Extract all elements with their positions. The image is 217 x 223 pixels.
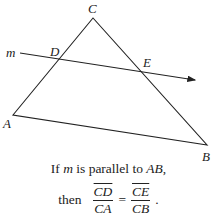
numerator: CE — [131, 184, 150, 201]
proportion-equation: then CD CA = CE CB . — [0, 184, 217, 216]
equals-sign: = — [118, 192, 126, 208]
label-e: E — [143, 56, 151, 69]
caption-text: , — [163, 161, 166, 176]
label-a: A — [3, 117, 11, 130]
period: . — [155, 192, 158, 208]
caption-text: is parallel to — [73, 161, 146, 176]
caption-line1: If m is parallel to AB, — [0, 161, 217, 177]
triangle-abc — [13, 18, 207, 145]
denominator: CB — [131, 201, 150, 217]
label-m: m — [6, 46, 15, 59]
caption-text: If — [51, 161, 63, 176]
numerator: CD — [93, 184, 114, 201]
fraction-ce-cb: CE CB — [131, 184, 150, 216]
then-text: then — [58, 192, 81, 208]
label-d: D — [50, 45, 59, 58]
denominator: CA — [93, 201, 112, 217]
caption-seg-ab: AB — [146, 161, 163, 176]
caption-var-m: m — [63, 161, 73, 176]
label-c: C — [88, 2, 97, 15]
line-m — [20, 53, 195, 80]
fraction-cd-ca: CD CA — [93, 184, 114, 216]
